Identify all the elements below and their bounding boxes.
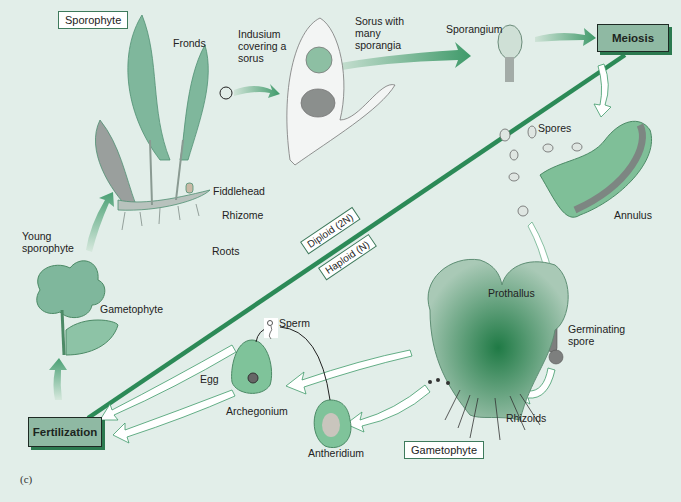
sorus-line-1: Sorus with	[355, 15, 404, 27]
fronds-label: Fronds	[173, 37, 206, 49]
meiosis-label: Meiosis	[612, 32, 654, 44]
rhizome-label: Rhizome	[222, 209, 263, 221]
arrow-rhizome-to-young	[86, 192, 114, 252]
young-sporophyte-line-1: Young	[22, 230, 74, 242]
gametophyte-label-box: Gametophyte	[404, 441, 484, 459]
antheridium-label: Antheridium	[308, 447, 364, 459]
indusium-line-2: covering a	[238, 40, 286, 52]
gametophyte-small-label: Gametophyte	[100, 303, 163, 315]
annulus-illustration	[540, 121, 652, 217]
spores-label: Spores	[538, 122, 571, 134]
antheridium-illustration	[314, 400, 351, 448]
germinating-line-1: Germinating	[568, 323, 625, 335]
archegonium-illustration	[232, 340, 272, 393]
egg-label: Egg	[200, 373, 219, 385]
fertilization-label: Fertilization	[33, 426, 98, 438]
roots-label: Roots	[212, 245, 239, 257]
fertilization-stage-box: Fertilization	[28, 417, 102, 447]
sorus-line-2: many	[355, 27, 404, 39]
arrow-sporangium-to-meiosis	[535, 28, 596, 46]
annulus-label: Annulus	[614, 209, 652, 221]
arrow-prothallus-to-archegonium	[286, 350, 412, 394]
sperm-illustration	[264, 318, 278, 339]
indusium-line-3: sorus	[238, 52, 286, 64]
sporophyte-label-box: Sporophyte	[58, 11, 128, 29]
sorus-label: Sorus with many sporangia	[355, 15, 404, 51]
germinating-spore-label: Germinating spore	[568, 323, 625, 347]
indusium-line-1: Indusium	[238, 28, 286, 40]
young-sporophyte-label: Young sporophyte	[22, 230, 74, 254]
fiddlehead-label: Fiddlehead	[213, 185, 265, 197]
sperm-label: Sperm	[279, 317, 310, 329]
indusium-label: Indusium covering a sorus	[238, 28, 286, 64]
prothallus-label: Prothallus	[488, 287, 535, 299]
arrow-frond-to-pinna	[234, 84, 280, 98]
arrow-fertilization-to-young	[49, 358, 67, 400]
archegonium-label: Archegonium	[226, 405, 288, 417]
meiosis-stage-box: Meiosis	[597, 24, 669, 52]
fern-life-cycle-diagram: Sporophyte Gametophyte Meiosis Fertiliza…	[0, 0, 681, 502]
sorus-magnifier-circle	[220, 87, 232, 99]
sorus-line-3: sporangia	[355, 39, 404, 51]
young-sporophyte-line-2: sporophyte	[22, 242, 74, 254]
sporangium-label: Sporangium	[446, 23, 503, 35]
panel-label: (c)	[20, 473, 32, 485]
diagram-artwork	[0, 0, 681, 502]
arrow-antheridium-to-fertilization	[113, 390, 235, 443]
rhizoids-label: Rhizoids	[506, 412, 546, 424]
arrow-prothallus-to-antheridium	[346, 385, 430, 432]
germinating-line-2: spore	[568, 335, 625, 347]
